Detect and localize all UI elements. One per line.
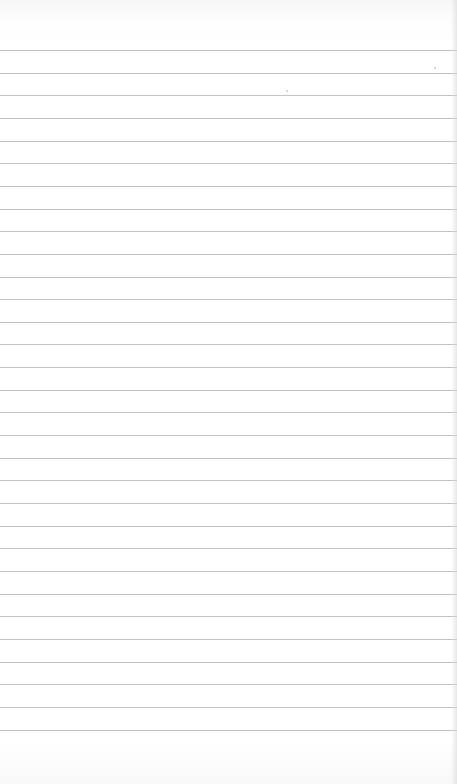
ruled-line [0, 390, 457, 391]
ruled-line [0, 163, 457, 164]
ruled-line [0, 435, 457, 436]
ruled-line [0, 594, 457, 595]
ruled-line [0, 503, 457, 504]
ruled-line [0, 548, 457, 549]
ruled-line [0, 322, 457, 323]
ruled-line [0, 616, 457, 617]
ruled-line [0, 299, 457, 300]
ruled-line [0, 254, 457, 255]
ruled-line [0, 707, 457, 708]
ruled-line [0, 141, 457, 142]
ruled-line [0, 662, 457, 663]
paper-speck [434, 67, 436, 69]
ruled-line [0, 344, 457, 345]
ruled-line [0, 231, 457, 232]
paper-speck [286, 90, 288, 92]
ruled-line [0, 639, 457, 640]
ruled-line [0, 526, 457, 527]
ruled-line [0, 458, 457, 459]
ruled-line [0, 50, 457, 51]
ruled-line [0, 95, 457, 96]
ruled-line [0, 730, 457, 731]
ruled-line [0, 118, 457, 119]
ruled-line [0, 367, 457, 368]
ruled-lines [0, 0, 457, 784]
ruled-line [0, 73, 457, 74]
ruled-line [0, 684, 457, 685]
ruled-line [0, 209, 457, 210]
ruled-line [0, 571, 457, 572]
ruled-line [0, 412, 457, 413]
ruled-line [0, 480, 457, 481]
ruled-paper-sheet [0, 0, 457, 784]
ruled-line [0, 186, 457, 187]
ruled-line [0, 277, 457, 278]
